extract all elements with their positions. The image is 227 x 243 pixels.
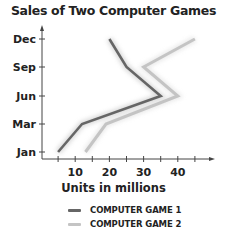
legend-label-game-2: COMPUTER GAME 2 (90, 219, 181, 229)
y-ticks: JanMarJunSepDec (12, 33, 45, 159)
series-line-game-1 (58, 39, 161, 152)
x-tick-label: 20 (102, 166, 118, 179)
y-tick-label: Mar (12, 118, 36, 131)
y-axis-arrow-icon (40, 25, 44, 31)
legend-label-game-1: COMPUTER GAME 1 (90, 205, 181, 215)
x-axis-title: Units in millions (0, 181, 227, 195)
x-tick-label: 30 (136, 166, 152, 179)
legend-swatch-game-1 (68, 209, 81, 212)
legend-item-game-2: COMPUTER GAME 2 (68, 217, 181, 231)
series-line-game-2 (85, 39, 194, 152)
y-tick-label: Jun (15, 90, 36, 103)
series-lines (58, 39, 195, 152)
y-tick-label: Jan (16, 146, 36, 159)
legend-swatch-game-2 (68, 223, 81, 226)
y-tick-label: Sep (13, 61, 36, 74)
x-tick-label: 40 (170, 166, 186, 179)
legend: COMPUTER GAME 1 COMPUTER GAME 2 (68, 203, 181, 231)
x-axis-arrow-icon (209, 157, 215, 161)
legend-item-game-1: COMPUTER GAME 1 (68, 203, 181, 217)
y-tick-label: Dec (13, 33, 36, 46)
x-tick-label: 10 (68, 166, 84, 179)
